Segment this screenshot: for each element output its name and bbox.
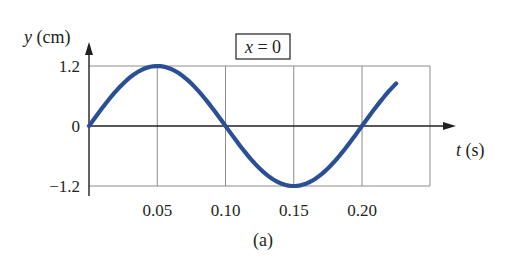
- x-tick-labels: 0.050.100.150.20: [142, 201, 377, 220]
- y-axis-unit: (cm): [32, 27, 70, 48]
- y-tick-label: −1.2: [49, 177, 80, 196]
- x-tick-label: 0.20: [347, 201, 377, 220]
- y-tick-labels: 1.20−1.2: [49, 57, 80, 196]
- annotation-box: x = 0: [236, 34, 290, 59]
- x-tick-label: 0.15: [279, 201, 309, 220]
- y-tick-label: 1.2: [59, 57, 80, 76]
- y-axis-label: y (cm): [22, 27, 70, 48]
- y-tick-label: 0: [72, 117, 81, 136]
- x-tick-label: 0.10: [211, 201, 241, 220]
- x-axis-unit: (s): [461, 140, 485, 161]
- x-axis-label: t (s): [456, 140, 485, 161]
- x-axis-arrow-icon: [443, 122, 456, 130]
- annotation-text: x = 0: [244, 37, 281, 57]
- y-axis-var: y: [22, 27, 32, 47]
- figure-caption: (a): [253, 230, 273, 251]
- wave-chart: y (cm) 1.20−1.2 0.050.100.150.20 t (s) x…: [0, 0, 515, 256]
- x-tick-label: 0.05: [142, 201, 172, 220]
- y-axis-arrow-icon: [85, 42, 93, 55]
- axes: [85, 42, 456, 196]
